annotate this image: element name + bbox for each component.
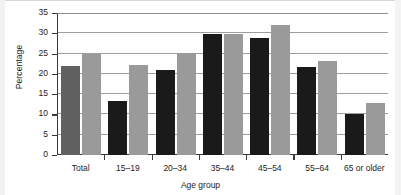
x-axis-tick-mark (199, 155, 200, 160)
x-axis-tick-mark (104, 155, 105, 160)
bar-group (57, 13, 104, 155)
x-axis-title: Age group (0, 180, 401, 190)
x-axis-tick-label: 45–54 (246, 163, 293, 173)
y-axis-tick-label: 10 (39, 108, 48, 118)
x-axis-tick-label: 35–44 (199, 163, 246, 173)
y-axis-tick-label: 20 (39, 68, 48, 78)
bar (108, 101, 127, 155)
bar (203, 34, 222, 155)
page-top-rule (0, 0, 401, 1)
bar (224, 34, 243, 155)
bar (366, 103, 385, 155)
y-axis: 05101520253035 (0, 0, 57, 195)
bar-series-container (57, 13, 388, 155)
y-axis-tick-label: 0 (43, 149, 48, 159)
x-axis-tick-mark (341, 155, 342, 160)
bar (82, 54, 101, 155)
bar-group (246, 13, 293, 155)
bar (61, 66, 80, 155)
bar-group (199, 13, 246, 155)
x-axis-tick-label: 15–19 (104, 163, 151, 173)
bar-group (152, 13, 199, 155)
page-right-margin (395, 0, 401, 195)
bar (297, 67, 316, 155)
x-axis-tick-mark (293, 155, 294, 160)
bar-group (104, 13, 151, 155)
y-axis-tick-label: 35 (39, 7, 48, 17)
x-axis-tick-label: 65 or older (341, 163, 388, 173)
bar (271, 25, 290, 155)
bar (177, 53, 196, 155)
x-axis: Total15–1920–3435–4445–5455–6465 or olde… (57, 155, 388, 181)
bar-group (293, 13, 340, 155)
bar (156, 70, 175, 155)
bar-group (341, 13, 388, 155)
bar (129, 65, 148, 155)
bar (318, 61, 337, 155)
y-axis-tick-label: 5 (43, 129, 48, 139)
bar (250, 38, 269, 155)
y-axis-tick-label: 30 (39, 27, 48, 37)
y-axis-tick-label: 15 (39, 88, 48, 98)
x-axis-tick-label: 55–64 (293, 163, 340, 173)
x-axis-tick-mark (152, 155, 153, 160)
bar (345, 114, 364, 155)
x-axis-tick-label: 20–34 (152, 163, 199, 173)
bar-chart-figure: Percentage 05101520253035 Total15–1920–3… (0, 0, 401, 195)
x-axis-tick-mark (246, 155, 247, 160)
y-axis-tick-label: 25 (39, 48, 48, 58)
x-axis-tick-label: Total (57, 163, 104, 173)
